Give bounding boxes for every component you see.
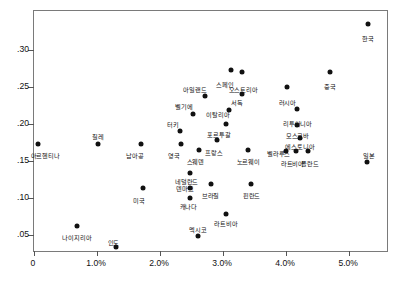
data-point-label: 아일랜드: [183, 87, 207, 93]
data-point: [240, 91, 245, 96]
data-point: [203, 94, 208, 99]
x-axis: 01.0%2.0%3.0%4.0%5.0%: [33, 256, 388, 272]
data-point-label: 일본: [363, 153, 375, 159]
data-point: [74, 223, 79, 228]
data-point: [197, 147, 202, 152]
y-tick-label: .30: [17, 44, 29, 54]
data-point: [214, 137, 219, 142]
data-point: [240, 69, 245, 74]
data-point-label: 터키: [167, 122, 179, 128]
data-point: [295, 106, 300, 111]
plot-area: 한국중국스페인오스트리아서독러시아아일랜드이탈리아리투아니아벨기에모스크바포르투…: [33, 10, 388, 252]
data-point-label: 브라질: [202, 193, 220, 199]
data-point: [141, 186, 146, 191]
y-tick-label: .20: [17, 118, 29, 128]
data-point-label: 폴란드: [301, 161, 319, 167]
data-point-label: 칠레: [92, 134, 104, 140]
data-point: [285, 84, 290, 89]
data-point: [224, 211, 229, 216]
data-point: [96, 142, 101, 147]
data-point-label: 캐나다: [180, 204, 198, 210]
y-tick-label: .25: [17, 81, 29, 91]
data-point: [178, 142, 183, 147]
data-point-label: 영국: [168, 153, 180, 159]
data-point-label: 러시아: [279, 100, 297, 106]
data-point: [188, 195, 193, 200]
data-point: [246, 147, 251, 152]
data-point-label: 벨라루스: [267, 151, 291, 157]
data-point-label: 서독: [231, 100, 243, 106]
data-point: [364, 160, 369, 165]
data-point: [228, 68, 233, 73]
data-point: [328, 69, 333, 74]
data-point-label: 나이지리아: [62, 235, 92, 241]
data-point-label: 이탈리아: [206, 112, 230, 118]
data-point-label: 한국: [362, 36, 374, 42]
data-point-label: 중국: [324, 84, 336, 90]
data-point: [295, 123, 300, 128]
x-tick-label: 4.0%: [275, 258, 295, 268]
x-tick-label: 3.0%: [212, 258, 232, 268]
data-point-label: 핀란드: [243, 193, 261, 199]
data-point-label: 노르웨이: [237, 159, 261, 165]
data-point: [139, 142, 144, 147]
data-point: [294, 149, 299, 154]
data-point: [306, 149, 311, 154]
data-point-label: 남아공: [126, 153, 144, 159]
data-point: [366, 21, 371, 26]
data-point-label: 미국: [133, 198, 145, 204]
y-tick-label: .05: [17, 229, 29, 239]
data-point-label: 스웨덴: [187, 159, 205, 165]
data-point: [249, 182, 254, 187]
x-tick-label: 5.0%: [338, 258, 358, 268]
y-tick-label: .10: [17, 192, 29, 202]
y-tick-label: .15: [17, 155, 29, 165]
data-point-label: 멕시코: [189, 227, 207, 233]
data-point-label: 덴마크: [176, 186, 194, 192]
data-point: [178, 129, 183, 134]
scatter-chart: 한국중국스페인오스트리아서독러시아아일랜드이탈리아리투아니아벨기에모스크바포르투…: [0, 0, 404, 294]
data-point-label: 벨기에: [175, 104, 193, 110]
data-point-label: 인도: [108, 240, 120, 246]
data-point-label: 라트비아: [214, 221, 238, 227]
x-tick-label: 1.0%: [86, 258, 106, 268]
data-point: [224, 121, 229, 126]
data-point: [190, 111, 195, 116]
data-point-label: 아르헨티나: [31, 153, 61, 159]
x-tick-label: 2.0%: [149, 258, 169, 268]
data-point: [35, 142, 40, 147]
data-point: [188, 171, 193, 176]
data-point: [208, 182, 213, 187]
y-axis: .05.10.15.20.25.30: [0, 10, 33, 252]
data-point-label: 프랑스: [205, 150, 223, 156]
x-tick-label: 0: [31, 258, 36, 268]
data-point: [298, 136, 303, 141]
data-point: [195, 234, 200, 239]
